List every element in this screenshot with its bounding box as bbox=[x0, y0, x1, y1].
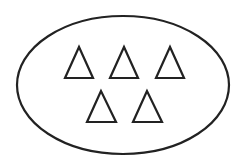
triangle-icon bbox=[156, 47, 184, 78]
triangle-icon bbox=[110, 47, 138, 78]
triangle-icon bbox=[133, 91, 162, 122]
triangle-icon bbox=[65, 47, 93, 78]
triangle-icon bbox=[87, 91, 116, 122]
set-diagram bbox=[0, 0, 247, 163]
set-ellipse bbox=[17, 16, 229, 154]
triangle-group bbox=[65, 47, 184, 122]
